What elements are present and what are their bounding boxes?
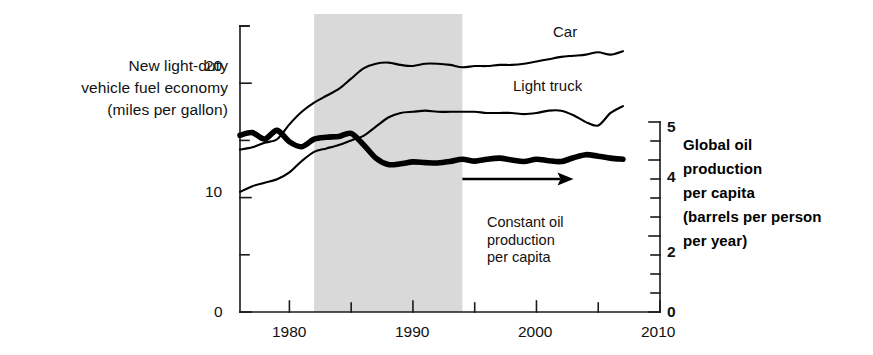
constant-oil-arrow-icon [462, 173, 573, 186]
right-axis [649, 122, 660, 312]
plot-canvas [0, 0, 873, 355]
fuel-economy-oil-production-chart: New light-duty vehicle fuel economy (mil… [0, 0, 873, 355]
left-axis [240, 26, 251, 312]
